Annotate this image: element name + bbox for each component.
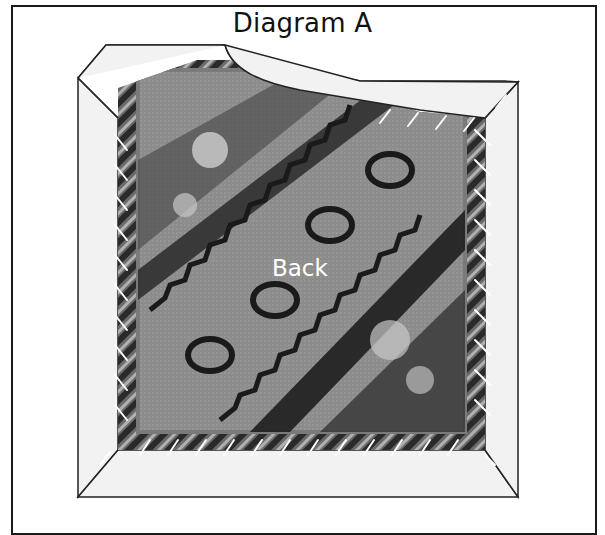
back-label: Back	[272, 255, 328, 281]
